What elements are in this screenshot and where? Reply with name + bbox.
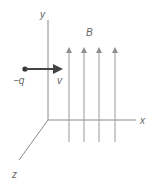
magnetic-field-lines: [69, 50, 115, 142]
charge-label: −q: [13, 75, 25, 86]
velocity-label: v: [57, 75, 63, 86]
z-axis: [19, 120, 48, 160]
field-label: B: [86, 27, 93, 38]
x-axis-label: x: [139, 115, 146, 126]
z-axis-label: z: [11, 169, 17, 180]
y-axis-label: y: [39, 9, 46, 20]
diagram-canvas: y x z B −q v: [0, 0, 151, 185]
